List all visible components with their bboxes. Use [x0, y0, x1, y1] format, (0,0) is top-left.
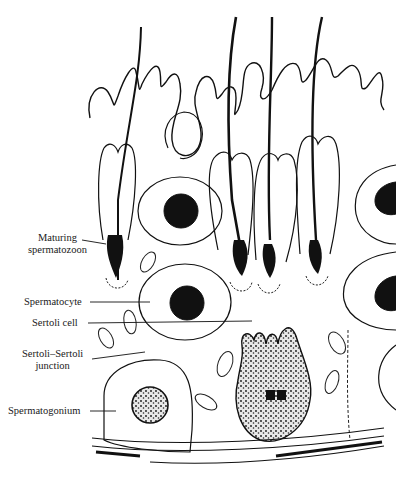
label-line: Spermatogonium: [8, 405, 80, 417]
spermatocyte-nuclei: [164, 182, 396, 320]
label-spermatogonium: Spermatogonium: [8, 405, 80, 417]
label-line: Maturing: [28, 232, 87, 244]
residual-bodies: [106, 276, 328, 293]
label-maturing-spermatozoon: Maturing spermatozoon: [28, 232, 87, 256]
leader-lines: [82, 240, 252, 411]
label-line: Spermatocyte: [24, 296, 82, 308]
spermatogonium-nucleus: [132, 387, 168, 423]
sertoli-junction-line: [348, 330, 351, 440]
sperm-heads: [107, 235, 322, 278]
label-sertoli-sertoli-junction: Sertoli–Sertoli junction: [22, 348, 83, 372]
label-spermatocyte: Spermatocyte: [24, 296, 82, 308]
label-line: Sertoli cell: [32, 317, 78, 329]
label-line: Sertoli–Sertoli: [22, 348, 83, 360]
label-line: junction: [22, 360, 83, 372]
basement-membrane: [92, 428, 384, 463]
sertoli-nucleus: [236, 328, 311, 441]
label-line: spermatozoon: [28, 244, 87, 256]
label-sertoli-cell: Sertoli cell: [32, 317, 78, 329]
